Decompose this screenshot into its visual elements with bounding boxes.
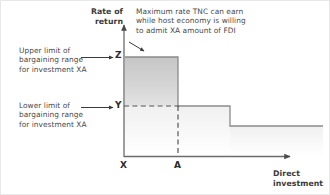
y-tick-label-z: Z [115,51,122,60]
bargaining-range-block [125,57,178,106]
x-tick-label-a: A [174,161,181,170]
plot-background-wash [124,106,323,156]
lower-limit-annotation: Lower limit of bargaining range for inve… [19,101,87,129]
upper-limit-annotation: Upper limit of bargaining range for inve… [19,46,87,74]
max-rate-annotation: Maximum rate TNC can earn while host eco… [136,7,246,35]
y-tick-label-y: Y [115,101,122,110]
origin-label-x: X [120,161,127,170]
max-rate-annotation-arrow [129,42,144,51]
diagram-canvas: Rate of return Direct investment Upper l… [0,0,330,195]
y-axis-title: Rate of return [89,7,123,26]
x-axis-title: Direct investment [273,169,323,188]
